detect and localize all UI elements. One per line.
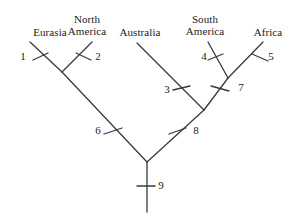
branch-6-laurasia	[62, 72, 147, 162]
taxon-label-africa: Africa	[248, 26, 288, 38]
branch-2-north-america	[62, 42, 92, 72]
branch-5-africa	[228, 42, 263, 78]
branch-number-1: 1	[17, 51, 29, 62]
branch-number-2: 2	[92, 51, 104, 62]
taxon-label-north-america: North America	[62, 13, 112, 37]
branch-4-south-america	[208, 42, 228, 78]
taxon-label-australia: Australia	[113, 26, 167, 38]
taxon-label-south-america: South America	[180, 13, 230, 37]
branch-number-9: 9	[155, 180, 167, 191]
phylogenetic-tree-figure: EurasiaNorth AmericaAustraliaSouth Ameri…	[0, 0, 295, 216]
branch-number-7: 7	[235, 82, 247, 93]
tick-8	[169, 128, 186, 134]
branch-number-8: 8	[190, 125, 202, 136]
branch-number-5: 5	[265, 51, 277, 62]
branch-1-eurasia	[30, 42, 62, 72]
branch-3-australia	[137, 43, 204, 110]
branch-number-4: 4	[198, 51, 210, 62]
branch-7-gondwana-right	[204, 78, 228, 110]
branch-8-gondwana	[147, 110, 204, 162]
tick-7	[211, 86, 229, 91]
branch-number-6: 6	[92, 125, 104, 136]
branch-number-3: 3	[161, 84, 173, 95]
